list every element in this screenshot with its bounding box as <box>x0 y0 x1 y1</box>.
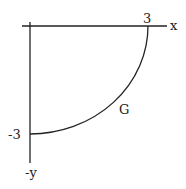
curve-label: G <box>119 103 129 116</box>
y-axis-label: -y <box>25 166 37 179</box>
curve-g <box>30 26 148 134</box>
diagram: 3 x -3 -y G <box>0 0 186 189</box>
x-tick-label: 3 <box>143 12 151 25</box>
y-tick-label: -3 <box>8 128 21 141</box>
x-axis-label: x <box>170 19 177 32</box>
diagram-canvas <box>0 0 186 189</box>
